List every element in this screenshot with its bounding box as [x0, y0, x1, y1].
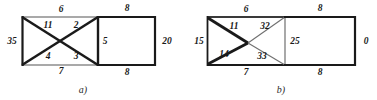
- caption-b: b): [277, 84, 285, 95]
- b-label-upper-right-diagonal: 32: [260, 22, 270, 32]
- a-label-lower-right-diagonal: 3: [74, 52, 79, 62]
- b-label-bottom-right-edge: 8: [318, 68, 323, 78]
- b-label-lower-right-diagonal: 33: [257, 52, 267, 62]
- b-upper-left-diagonal-line: [208, 18, 248, 43]
- a-label-upper-left-diagonal: 11: [44, 21, 53, 31]
- b-label-left-edge: 15: [194, 37, 204, 47]
- a-label-left-edge: 35: [7, 37, 17, 47]
- b-label-middle-divider: 25: [290, 37, 300, 47]
- a-label-top-right-edge: 8: [125, 4, 130, 14]
- a-label-lower-left-diagonal: 4: [46, 52, 51, 62]
- b-label-lower-left-diagonal: 14: [219, 50, 229, 60]
- diagram-lines: [0, 0, 377, 100]
- a-label-bottom-right-edge: 8: [125, 68, 130, 78]
- a-label-middle-divider: 5: [103, 37, 108, 47]
- b-label-right-edge: 0: [364, 37, 369, 47]
- figure-root: 6 11 2 35 4 3 7 5 8 8 20 a) 6 11 32 15 1…: [0, 0, 377, 100]
- b-label-upper-left-diagonal: 11: [230, 22, 239, 32]
- b-label-bottom-left-edge: 7: [244, 68, 249, 78]
- a-label-right-edge: 20: [162, 37, 172, 47]
- b-label-top-right-edge: 8: [318, 4, 323, 14]
- b-label-top-left-edge: 6: [244, 5, 249, 15]
- caption-a: a): [79, 84, 87, 95]
- a-label-top-left-edge: 6: [59, 5, 64, 15]
- a-label-bottom-left-edge: 7: [59, 67, 64, 77]
- a-label-upper-right-diagonal: 2: [74, 21, 79, 31]
